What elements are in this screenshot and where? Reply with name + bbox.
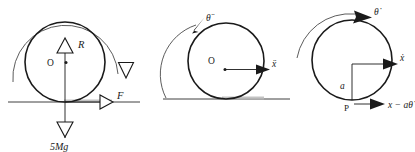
weight-label: 5Mg bbox=[50, 141, 68, 152]
figure-canvas: R O F 5Mg θ̈ O bbox=[0, 0, 415, 152]
weight-arrowhead-icon bbox=[57, 122, 73, 137]
radius-label-a: a bbox=[340, 81, 345, 91]
reaction-label: R bbox=[77, 39, 85, 50]
contact-point-label-p: P bbox=[344, 103, 349, 113]
wheel-circle bbox=[188, 23, 264, 99]
contact-velocity-label: x − aθ̇ bbox=[387, 100, 415, 110]
physics-figure: R O F 5Mg θ̈ O bbox=[0, 0, 415, 152]
friction-label: F bbox=[116, 90, 124, 101]
panel-accel: θ̈ O ẍ bbox=[160, 13, 290, 100]
center-label-o: O bbox=[47, 58, 54, 68]
panel-velocity: θ̇ ẋ a P x − aθ̇ bbox=[297, 7, 415, 113]
linear-accel-label: ẍ bbox=[271, 59, 277, 69]
center-dot bbox=[65, 61, 68, 64]
reaction-arrowhead-icon bbox=[57, 38, 73, 53]
contact-velocity-arrowhead-icon bbox=[370, 99, 385, 110]
arc-arrowhead-icon bbox=[119, 63, 134, 79]
friction-arrowhead-icon bbox=[100, 95, 113, 109]
center-label-o: O bbox=[208, 56, 215, 66]
angular-accel-arc-icon bbox=[160, 25, 196, 98]
panel-free-body: R O F 5Mg bbox=[8, 22, 140, 152]
angular-accel-label: θ̈ bbox=[206, 13, 215, 23]
angular-velocity-label: θ̇ bbox=[374, 7, 382, 17]
linear-velocity-label: ẋ bbox=[399, 53, 405, 63]
